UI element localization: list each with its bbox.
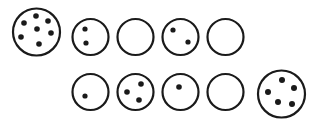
dot-marker — [275, 99, 281, 105]
dot-marker — [83, 40, 88, 45]
dot-marker — [289, 101, 295, 107]
dot-marker — [170, 27, 175, 32]
dot-circles-figure — [0, 0, 323, 126]
dot-marker — [265, 89, 271, 95]
dot-marker — [48, 30, 54, 36]
dot-marker — [176, 84, 182, 90]
dot-marker — [33, 13, 39, 19]
dot-marker — [82, 26, 87, 31]
dot-marker — [136, 97, 142, 103]
dot-marker — [34, 26, 40, 32]
dot-circles-canvas — [0, 0, 323, 126]
dot-marker — [138, 81, 144, 87]
dot-marker — [185, 39, 190, 44]
dot-marker — [82, 93, 87, 98]
dot-marker — [18, 34, 24, 40]
dot-marker — [291, 85, 297, 91]
dot-marker — [21, 20, 27, 26]
dot-marker — [124, 89, 130, 95]
dot-marker — [36, 41, 42, 47]
dot-marker — [279, 77, 285, 83]
dot-marker — [45, 18, 51, 24]
